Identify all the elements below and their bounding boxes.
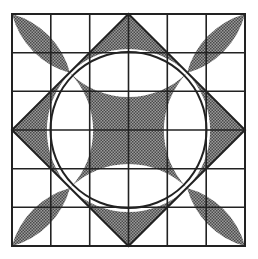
lens-top-left xyxy=(12,14,70,73)
geometric-pattern-figure xyxy=(0,0,258,259)
lens-bottom-left xyxy=(12,188,70,246)
lens-top-right xyxy=(187,14,245,73)
lens-bottom-right xyxy=(187,188,245,246)
